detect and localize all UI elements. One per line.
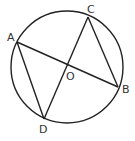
label-B: B: [122, 84, 130, 95]
label-O: O: [66, 71, 75, 82]
label-C: C: [87, 4, 95, 15]
label-D: D: [39, 124, 47, 135]
segment-CB: [88, 17, 118, 87]
label-A: A: [7, 32, 15, 43]
segment-CD: [44, 17, 88, 119]
segment-AD: [17, 42, 44, 119]
